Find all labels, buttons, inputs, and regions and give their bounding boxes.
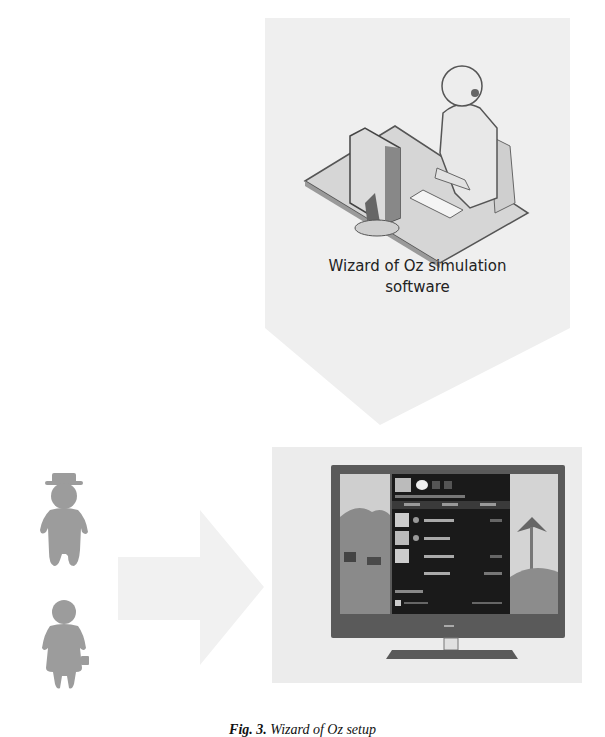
elderly-man-with-hat-icon [40,473,88,566]
wizard-label: Wizard of Oz simulation software [265,256,570,298]
wizard-panel [265,18,570,428]
right-arrow-icon [116,508,266,668]
wizard-label-line1: Wizard of Oz simulation [265,256,570,277]
elderly-woman-with-handbag-icon [42,600,89,689]
wizard-label-line2: software [265,277,570,298]
figure-caption: Fig. 3. Wizard of Oz setup [0,722,605,737]
users-group [40,470,120,710]
smart-tv-with-menu-icon [272,447,582,683]
caption-number: Fig. 3. [229,722,267,737]
caption-text: Wizard of Oz setup [270,722,376,737]
tv-panel [272,447,582,683]
